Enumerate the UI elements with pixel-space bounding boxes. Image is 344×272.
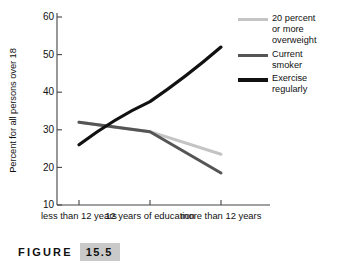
legend-swatch-exercise-regularly bbox=[238, 78, 268, 82]
x-tick-label-more-than-12-years: more than 12 years bbox=[176, 210, 266, 221]
figure-container: Percent for all persons over 18 60 50 40… bbox=[0, 0, 344, 272]
legend-swatch-current-smoker bbox=[238, 54, 268, 58]
legend-label-current-smoker: Current smoker bbox=[272, 49, 344, 71]
y-tick-label-60: 60 bbox=[30, 11, 54, 22]
figure-caption: FIGURE 15.5 bbox=[18, 243, 120, 261]
y-axis-title: Percent for all persons over 18 bbox=[7, 26, 18, 196]
y-tick-label-50: 50 bbox=[30, 49, 54, 60]
legend-item-current-smoker: Current smoker bbox=[238, 49, 344, 71]
legend-item-exercise-regularly: Exercise regularly bbox=[238, 73, 344, 95]
series-line-0 bbox=[79, 122, 221, 154]
legend-item-overweight: 20 percent or more overweight bbox=[238, 13, 344, 47]
legend-swatch-overweight bbox=[238, 18, 268, 21]
y-tick-label-30: 30 bbox=[30, 124, 54, 135]
legend-label-overweight: 20 percent or more overweight bbox=[272, 13, 344, 47]
figure-caption-number: 15.5 bbox=[80, 243, 120, 261]
y-tick-label-20: 20 bbox=[30, 162, 54, 173]
legend-label-exercise-regularly: Exercise regularly bbox=[272, 73, 344, 95]
y-tick-label-40: 40 bbox=[30, 86, 54, 97]
y-tick-label-10: 10 bbox=[30, 199, 54, 210]
figure-caption-word: FIGURE bbox=[18, 246, 73, 258]
chart-legend: 20 percent or more overweight Current sm… bbox=[238, 13, 344, 97]
